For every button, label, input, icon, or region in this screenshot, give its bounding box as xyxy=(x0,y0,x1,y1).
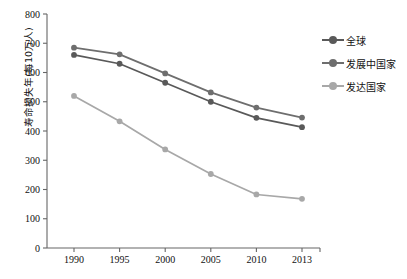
chart-legend: 全球 发展中国家 发达国家 xyxy=(322,30,407,99)
x-tick-label: 2000 xyxy=(155,254,175,265)
legend-label-developed: 发达国家 xyxy=(344,79,386,94)
legend-marker-developed xyxy=(322,80,344,92)
legend-marker-developing xyxy=(322,57,344,69)
data-point xyxy=(162,80,168,86)
y-tick-label: 200 xyxy=(25,184,40,195)
y-tick-label: 0 xyxy=(35,243,40,254)
y-tick-label: 600 xyxy=(25,67,40,78)
data-point xyxy=(162,147,168,153)
data-point xyxy=(299,115,305,121)
data-point xyxy=(71,45,77,51)
data-point xyxy=(299,124,305,130)
series-line xyxy=(74,48,302,118)
data-point xyxy=(71,52,77,58)
data-point xyxy=(162,70,168,76)
x-tick-label: 1990 xyxy=(64,254,84,265)
series-0 xyxy=(71,52,305,130)
data-point xyxy=(254,192,260,198)
legend-item-global[interactable]: 全球 xyxy=(322,30,407,50)
data-series-group xyxy=(71,45,305,202)
legend-item-developed[interactable]: 发达国家 xyxy=(322,76,407,96)
data-point xyxy=(254,115,260,121)
data-point xyxy=(71,93,77,99)
y-axis: 8007006005004003002001000 xyxy=(25,9,47,254)
chart-figure: 寿命损失年(每10万人) 8007006005004003002001000 1… xyxy=(0,0,407,279)
data-point xyxy=(254,105,260,111)
y-tick-label: 800 xyxy=(25,9,40,20)
x-tick-label: 1995 xyxy=(110,254,130,265)
data-point xyxy=(117,61,123,67)
legend-marker-global xyxy=(322,34,344,46)
legend-label-global: 全球 xyxy=(344,33,366,48)
legend-label-developing: 发展中国家 xyxy=(344,56,396,71)
x-tick-label: 2013 xyxy=(292,254,312,265)
data-point xyxy=(299,196,305,202)
series-line xyxy=(74,55,302,127)
series-2 xyxy=(71,93,305,202)
data-point xyxy=(208,99,214,105)
data-point xyxy=(208,89,214,95)
data-point xyxy=(117,51,123,57)
series-line xyxy=(74,96,302,199)
y-tick-label: 500 xyxy=(25,96,40,107)
x-tick-label: 2010 xyxy=(246,254,266,265)
data-point xyxy=(117,118,123,124)
y-tick-label: 400 xyxy=(25,126,40,137)
x-axis: 199019952000200520102013 xyxy=(47,248,320,265)
data-point xyxy=(208,171,214,177)
y-tick-label: 100 xyxy=(25,213,40,224)
legend-item-developing[interactable]: 发展中国家 xyxy=(322,53,407,73)
y-tick-label: 700 xyxy=(25,38,40,49)
y-tick-label: 300 xyxy=(25,155,40,166)
series-1 xyxy=(71,45,305,121)
x-tick-label: 2005 xyxy=(201,254,221,265)
